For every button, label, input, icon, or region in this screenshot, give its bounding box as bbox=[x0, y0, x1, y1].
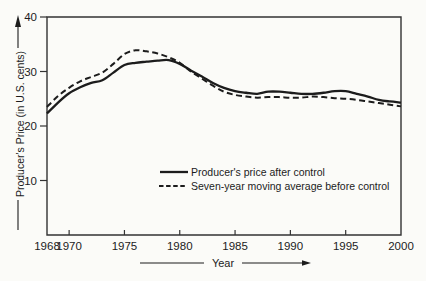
y-tick-label: 10 bbox=[24, 175, 37, 187]
chart-page: 4030201019681970197519801985199019952000… bbox=[0, 0, 426, 281]
x-tick-label: 1990 bbox=[278, 240, 304, 252]
producer-price-line-chart: 4030201019681970197519801985199019952000… bbox=[0, 0, 426, 281]
plot-frame bbox=[47, 17, 401, 235]
up-arrow-icon bbox=[15, 15, 21, 27]
x-axis-title: Year bbox=[212, 257, 235, 269]
series-line-solid bbox=[47, 60, 401, 114]
y-axis-title: Producer's Price (in U.S. cents) bbox=[14, 51, 26, 197]
right-arrow-icon bbox=[302, 260, 311, 266]
x-tick-label: 1995 bbox=[333, 240, 359, 252]
x-tick-label: 1970 bbox=[56, 240, 82, 252]
y-tick-label: 20 bbox=[24, 120, 37, 132]
legend-label-before-control: Seven-year moving average before control bbox=[191, 180, 389, 192]
y-tick-label: 30 bbox=[24, 66, 37, 78]
x-tick-label: 1975 bbox=[112, 240, 138, 252]
y-tick-label: 40 bbox=[24, 11, 37, 23]
x-tick-label: 1980 bbox=[167, 240, 193, 252]
series-line-dashed bbox=[47, 50, 401, 107]
x-tick-label: 2000 bbox=[388, 240, 414, 252]
x-tick-label: 1985 bbox=[222, 240, 248, 252]
legend-label-after-control: Producer's price after control bbox=[191, 166, 325, 178]
